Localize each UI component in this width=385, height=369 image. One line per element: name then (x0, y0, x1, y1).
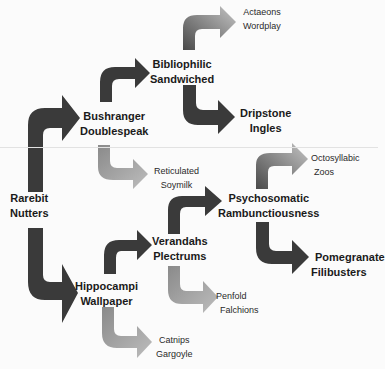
arrow-hippocampi-to-catnips (102, 307, 152, 358)
divider-line (0, 147, 378, 148)
arrow-bibliophilic-to-actaeons (183, 6, 236, 50)
arrow-verandahs-to-psychosomatic (168, 186, 222, 234)
node-pomegranate-filibusters: Pomegranate Filibusters (311, 250, 385, 280)
arrow-bushranger-to-bibliophilic (100, 58, 150, 102)
node-penfold-falchions: Penfold Falchions (216, 289, 259, 317)
arrow-bushranger-to-reticulated (98, 145, 148, 189)
arrow-bibliophilic-to-dripstone (183, 85, 235, 134)
node-bibliophilic-sandwiched: Bibliophilic Sandwiched (150, 57, 214, 87)
node-catnips-gargoyle: Catnips Gargoyle (156, 333, 193, 361)
node-verandahs-plectrums: Verandahs Plectrums (152, 234, 208, 264)
node-actaeons-wordplay: Actaeons Wordplay (243, 5, 281, 33)
arrow-root-to-bushranger (28, 95, 80, 192)
arrow-root-to-hippocampi (28, 228, 78, 323)
node-psychosomatic-rambunctiousness: Psychosomatic Rambunctiousness (218, 191, 319, 221)
arrow-hippocampi-to-verandahs (104, 230, 152, 274)
node-rarebit-nutters: Rarebit Nutters (10, 191, 49, 221)
node-hippocampi-wallpaper: Hippocampi Wallpaper (75, 279, 138, 309)
arrow-verandahs-to-penfold (168, 266, 218, 313)
node-dripstone-ingles: Dripstone Ingles (240, 106, 291, 136)
arrow-psychosomatic-to-pomegranate (256, 222, 309, 274)
node-bushranger-doublespeak: Bushranger Doublespeak (80, 109, 148, 139)
node-octosyllabic-zoos: Octosyllabic Zoos (311, 151, 360, 179)
arrow-psychosomatic-to-octosyllabic (256, 143, 308, 189)
node-reticulated-soymilk: Reticulated Soymilk (154, 164, 199, 192)
